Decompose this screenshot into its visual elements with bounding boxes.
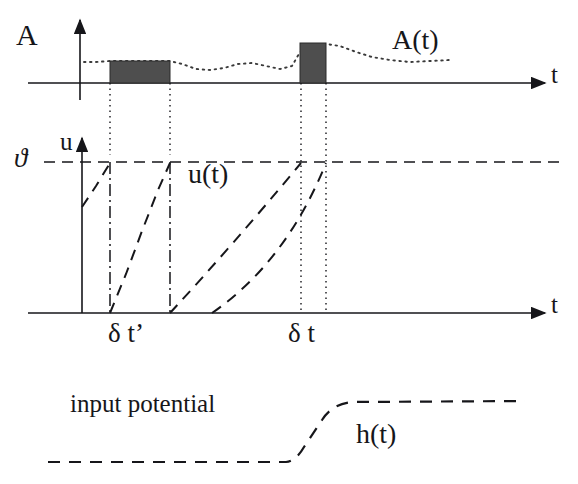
amplitude-panel — [28, 20, 545, 100]
threshold-label: ϑ — [14, 145, 27, 172]
amplitude-spike-2 — [300, 43, 326, 83]
figure-canvas: A A(t) t ϑ u u(t) δ t’ δ t t input poten… — [0, 0, 578, 484]
input-potential-label: input potential — [70, 391, 215, 416]
interval-short-label: δ t’ — [108, 320, 144, 347]
potential-ramp-1 — [110, 163, 170, 313]
potential-panel — [28, 138, 562, 313]
time-axis-label-middle: t — [551, 292, 558, 317]
amplitude-spike-1 — [110, 61, 170, 83]
interval-markers — [110, 83, 326, 313]
interval-long-label: δ t — [288, 320, 315, 347]
potential-ramp-0 — [82, 163, 110, 207]
input-signal-label: h(t) — [356, 420, 396, 448]
amplitude-signal-label: A(t) — [392, 26, 439, 54]
amplitude-axis-label: A — [16, 20, 38, 50]
potential-signal-label: u(t) — [188, 160, 228, 188]
potential-ramp-3 — [212, 163, 326, 313]
time-axis-label-top: t — [551, 62, 558, 87]
potential-axis-label: u — [60, 129, 73, 154]
